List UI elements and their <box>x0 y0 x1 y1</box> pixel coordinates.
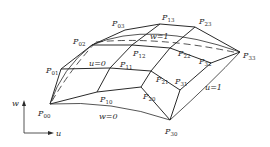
boundary-label-w0: w=0 <box>99 112 118 121</box>
control-point-label-p30: P30 <box>164 127 178 137</box>
boundary-label-w1: w=1 <box>150 32 169 41</box>
control-point-label-p03: P03 <box>111 19 125 29</box>
control-point-label-p20: P20 <box>142 92 156 102</box>
control-point-label-p23: P23 <box>198 17 212 27</box>
boundary-label-u0: u=0 <box>89 59 106 68</box>
control-net <box>50 24 240 120</box>
axis-u-arrow-icon <box>48 131 54 135</box>
axis-u-label: u <box>56 129 61 138</box>
control-point-label-p11: P11 <box>119 60 132 70</box>
axis-w-label: w <box>12 99 19 108</box>
control-point-label-p02: P02 <box>72 37 85 47</box>
boundary-label-u1: u=1 <box>205 83 222 92</box>
control-point-label-p00: P00 <box>37 109 51 119</box>
control-point-label-p13: P13 <box>161 13 175 23</box>
bezier-surface-diagram: P00P10P20P30P01P11P21P31P02P12P22P32P03P… <box>0 0 270 147</box>
control-point-label-p22: P22 <box>177 49 190 59</box>
dashed-u0 <box>52 42 96 101</box>
control-point-label-p10: P10 <box>99 95 113 105</box>
axis-indicator: w u <box>12 99 61 138</box>
control-point-label-p01: P01 <box>45 66 58 76</box>
control-point-label-p12: P12 <box>132 49 145 59</box>
control-point-label-p21: P21 <box>155 75 168 85</box>
control-point-label-p33: P33 <box>242 51 256 61</box>
net-row-2 <box>92 45 211 63</box>
control-point-labels: P00P10P20P30P01P11P21P31P02P12P22P32P03P… <box>37 13 256 137</box>
axis-w-arrow-icon <box>22 100 26 106</box>
diagram-canvas: P00P10P20P30P01P11P21P31P02P12P22P32P03P… <box>0 0 270 147</box>
control-point-label-p32: P32 <box>198 57 211 67</box>
control-point-label-p31: P31 <box>174 77 187 87</box>
